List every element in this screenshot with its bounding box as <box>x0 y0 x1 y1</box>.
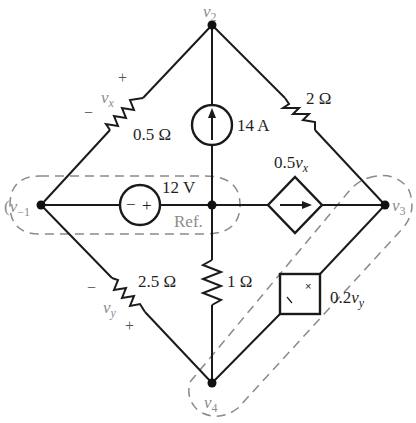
vs-minus-sign: − <box>126 195 136 214</box>
node-v-minus1 <box>37 201 46 210</box>
label-v2: v2 <box>203 2 217 24</box>
vy-minus-sign: − <box>87 279 96 296</box>
label-0-5-ohm: 0.5 Ω <box>133 125 171 144</box>
label-v-minus1: (v−1 <box>4 197 30 219</box>
vx-plus-sign: + <box>118 69 127 86</box>
vx-minus-sign: − <box>84 104 93 121</box>
node-v3 <box>381 201 390 210</box>
dependent-voltage-source: × <box>280 274 320 314</box>
label-2-5-ohm: 2.5 Ω <box>138 272 176 291</box>
label-1-ohm: 1 Ω <box>227 272 252 291</box>
circuit-diagram: − + × v2 (v−1 Ref. v3 v4 0.5 Ω 14 A 2 Ω … <box>0 0 416 423</box>
vs-plus-sign: + <box>142 196 152 215</box>
dependent-current-source <box>268 177 322 233</box>
current-source-14a <box>192 105 232 145</box>
vy-plus-sign: + <box>125 317 134 334</box>
label-vx: vx <box>101 88 115 110</box>
resistor-1-ohm <box>203 260 221 305</box>
label-v4: v4 <box>204 393 218 415</box>
voltage-source-12v: − + <box>120 185 160 225</box>
label-12v: 12 V <box>162 178 196 197</box>
dvs-plus-sign: × <box>305 280 311 292</box>
node-v4 <box>208 379 217 388</box>
label-v3: v3 <box>392 196 406 218</box>
label-dep-current: 0.5vx <box>274 153 309 175</box>
label-ref: Ref. <box>174 212 203 231</box>
node-ref <box>208 201 217 210</box>
label-2-ohm: 2 Ω <box>306 89 331 108</box>
label-14a: 14 A <box>237 116 270 135</box>
label-vy: vy <box>103 298 117 320</box>
label-dep-voltage: 0.2vy <box>330 288 365 310</box>
